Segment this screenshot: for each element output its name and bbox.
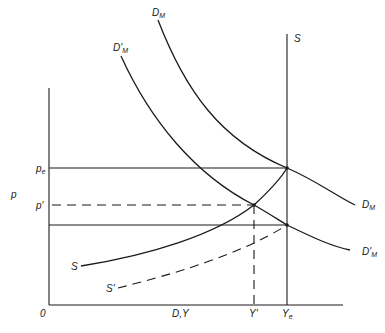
y-axis-label: p (10, 189, 17, 200)
intersection-pe (285, 166, 289, 170)
tick-pe: pe (35, 163, 46, 175)
x-axis-label: D,Y (172, 308, 190, 319)
intersection-p-prime (252, 203, 256, 207)
label-s-curve: S (71, 261, 78, 272)
s-prime-supply-curve (118, 225, 287, 288)
label-dm-prime-right: D'M (362, 246, 377, 258)
dm-demand-curve (158, 20, 355, 205)
s-supply-curve (81, 168, 287, 266)
intersection-lower (285, 223, 289, 227)
diagram-canvas: DM D'M S DM D'M S S' p pe p' 0 D,Y Y' Ye (0, 0, 385, 333)
tick-p-prime: p' (35, 200, 45, 211)
dm-prime-demand-curve (121, 56, 350, 250)
label-dm-top: DM (152, 7, 165, 19)
supply-demand-diagram: DM D'M S DM D'M S S' p pe p' 0 D,Y Y' Ye (0, 0, 385, 333)
tick-y-prime: Y' (249, 308, 259, 319)
label-dm-right: DM (362, 199, 375, 211)
tick-ye: Ye (282, 308, 293, 320)
origin-label: 0 (40, 308, 46, 319)
label-s-prime-curve: S' (106, 283, 116, 294)
label-dm-prime-top: D'M (113, 42, 128, 54)
label-s-vertical: S (294, 33, 301, 44)
